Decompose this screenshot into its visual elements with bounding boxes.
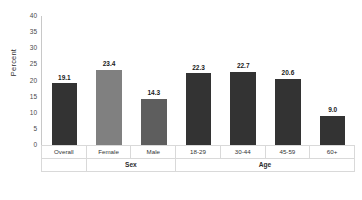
bar[interactable]: 22.7 — [230, 72, 255, 145]
y-axis-tick-label: 15 — [16, 93, 37, 100]
category-cell: 60+ — [310, 146, 355, 159]
bar-slot: 23.4 — [87, 16, 132, 145]
bar[interactable]: 14.3 — [141, 99, 166, 145]
y-axis-tick-label: 25 — [16, 61, 37, 68]
y-axis-ticks: 0510152025303540 — [16, 0, 37, 200]
bar[interactable]: 22.3 — [186, 73, 211, 145]
bar-value-label: 20.6 — [282, 70, 295, 77]
bar-slot: 22.7 — [221, 16, 266, 145]
bar-value-label: 22.7 — [237, 63, 250, 70]
group-label-row: SexAge — [42, 159, 355, 172]
y-axis-tick-label: 0 — [16, 142, 37, 149]
bar-value-label: 19.1 — [58, 75, 71, 82]
bar-chart: Percent 0510152025303540 19.123.414.322.… — [0, 0, 362, 200]
y-axis-tick-label: 10 — [16, 110, 37, 117]
y-axis-tick-label: 30 — [16, 45, 37, 52]
bar[interactable]: 9.0 — [320, 116, 345, 145]
bar-slot: 14.3 — [131, 16, 176, 145]
category-cell: Female — [86, 146, 131, 159]
plot-area: 19.123.414.322.322.720.69.0 — [41, 16, 355, 145]
bar-slot: 9.0 — [310, 16, 355, 145]
y-axis-tick-label: 35 — [16, 29, 37, 36]
category-cell: 30-44 — [220, 146, 265, 159]
bar-value-label: 14.3 — [147, 90, 160, 97]
group-cell: Age — [176, 159, 355, 172]
y-axis-tick-label: 5 — [16, 126, 37, 133]
category-label-row: OverallFemaleMale18-2930-4445-5960+ — [42, 146, 355, 159]
bar-series: 19.123.414.322.322.720.69.0 — [42, 16, 355, 145]
bar-slot: 19.1 — [42, 16, 87, 145]
bar[interactable]: 19.1 — [52, 83, 77, 145]
category-cell: 18-29 — [176, 146, 221, 159]
category-cell: Male — [131, 146, 176, 159]
y-axis-tick-label: 20 — [16, 77, 37, 84]
bar-value-label: 22.3 — [192, 65, 205, 72]
bar-value-label: 9.0 — [328, 107, 337, 114]
category-table: OverallFemaleMale18-2930-4445-5960+ SexA… — [41, 145, 355, 172]
group-cell-empty — [42, 159, 87, 172]
category-cell: 45-59 — [265, 146, 310, 159]
bar-value-label: 23.4 — [103, 61, 116, 68]
group-cell: Sex — [86, 159, 175, 172]
bar-slot: 20.6 — [266, 16, 311, 145]
category-cell: Overall — [42, 146, 87, 159]
y-axis-tick-label: 40 — [16, 13, 37, 20]
bar[interactable]: 23.4 — [96, 70, 121, 145]
bar-slot: 22.3 — [176, 16, 221, 145]
bar[interactable]: 20.6 — [275, 79, 300, 145]
